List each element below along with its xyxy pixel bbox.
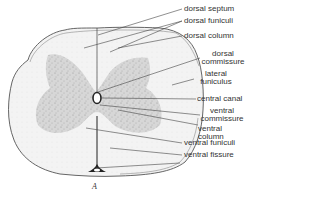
label-dorsal-commissure: dorsal commissure: [200, 50, 246, 66]
label-ventral-funiculi: ventral funiculi: [184, 139, 235, 147]
label-ventral-commissure: ventral commissure: [198, 107, 246, 123]
label-ventral-fissure: ventral fissure: [184, 151, 234, 159]
figure-caption: A: [92, 182, 97, 191]
label-dorsal-septum: dorsal septum: [184, 5, 234, 13]
label-central-canal: central canal: [197, 95, 242, 103]
central-canal-shape: [93, 93, 101, 104]
label-line: commissure: [198, 115, 246, 123]
label-line: commissure: [200, 58, 246, 66]
label-line: funiculus: [194, 78, 238, 86]
label-lateral-funiculus: lateral funiculus: [194, 70, 238, 86]
label-dorsal-funiculi: dorsal funiculi: [184, 17, 233, 25]
label-dorsal-column: dorsal column: [184, 32, 234, 40]
